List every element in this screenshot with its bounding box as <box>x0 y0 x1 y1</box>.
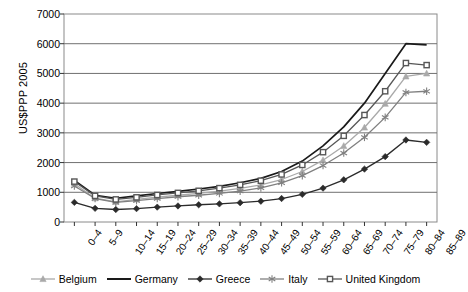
x-tick-label: 25–29 <box>195 228 219 257</box>
legend-item-belgium[interactable]: Belgium <box>30 273 97 285</box>
x-tick-label: 70–74 <box>382 228 406 257</box>
x-tick-label: 10–14 <box>133 228 157 257</box>
legend-label: United Kingdom <box>346 274 421 285</box>
legend-label: Germany <box>135 274 178 285</box>
x-tick-label: 50–54 <box>299 228 323 257</box>
legend-item-greece[interactable]: Greece <box>187 273 250 285</box>
x-tick-label: 40–44 <box>257 228 281 257</box>
legend-key-diamond-icon <box>187 273 213 285</box>
legend-key-triangle-icon <box>30 273 56 285</box>
x-tick-label: 5–9 <box>107 228 125 247</box>
data-point-diamond <box>197 276 203 282</box>
legend-item-italy[interactable]: Italy <box>259 273 307 285</box>
data-point-square <box>327 276 332 281</box>
legend-label: Greece <box>216 274 250 285</box>
x-tick-label: 80–84 <box>423 228 447 257</box>
x-tick-label: 75–79 <box>402 228 426 257</box>
x-tick-label: 55–59 <box>320 228 344 257</box>
x-tick-label: 60–64 <box>340 228 364 257</box>
legend-label: Italy <box>288 274 307 285</box>
legend-item-germany[interactable]: Germany <box>106 273 178 285</box>
chart-legend: BelgiumGermanyGreeceItalyUnited Kingdom <box>0 268 450 290</box>
legend-label: Belgium <box>59 274 97 285</box>
x-tick-label: 45–49 <box>278 228 302 257</box>
legend-key-none-icon <box>106 273 132 285</box>
x-tick-label: 85–89 <box>444 228 468 257</box>
x-tick-label: 20–24 <box>175 228 199 257</box>
x-tick-label: 15–19 <box>154 228 178 257</box>
legend-item-united-kingdom[interactable]: United Kingdom <box>317 273 421 285</box>
legend-key-square-icon <box>317 273 343 285</box>
x-tick-label: 35–39 <box>237 228 261 257</box>
legend-key-star-icon <box>259 273 285 285</box>
x-tick-label: 0–4 <box>87 228 105 247</box>
x-tick-label: 30–34 <box>216 228 240 257</box>
x-tick-label: 65–69 <box>361 228 385 257</box>
